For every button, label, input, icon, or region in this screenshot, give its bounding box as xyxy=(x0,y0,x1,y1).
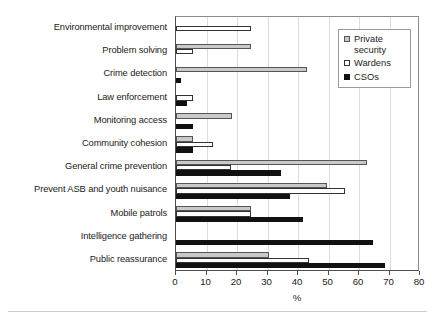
legend-label: Private security xyxy=(354,34,386,55)
bar-group xyxy=(176,110,418,133)
category-label: Crime detection xyxy=(0,68,167,78)
category-label: Community cohesion xyxy=(0,138,167,148)
bar-wardens xyxy=(176,26,251,31)
legend-swatch-private-icon xyxy=(344,36,350,42)
tick-label-60: 60 xyxy=(345,276,371,287)
category-label: Prevent ASB and youth nuisance xyxy=(0,184,167,194)
legend-label: CSOs xyxy=(354,72,379,83)
bar-chart: Environmental improvementProblem solving… xyxy=(0,0,435,320)
category-label: Intelligence gathering xyxy=(0,231,167,241)
bar-group xyxy=(176,156,418,179)
bar-csos xyxy=(176,170,281,175)
tick-label-40: 40 xyxy=(284,276,310,287)
tick-mark-20 xyxy=(236,271,237,275)
legend-swatch-wardens-icon xyxy=(344,60,350,66)
category-label: Mobile patrols xyxy=(0,208,167,218)
bar-csos xyxy=(176,101,187,106)
figure-bottom-rule xyxy=(8,311,427,312)
tick-mark-0 xyxy=(175,271,176,275)
category-label: Public reassurance xyxy=(0,254,167,264)
bar-group xyxy=(176,179,418,202)
tick-mark-70 xyxy=(389,271,390,275)
tick-label-50: 50 xyxy=(315,276,341,287)
bar-csos xyxy=(176,124,193,129)
bar-csos xyxy=(176,194,290,199)
x-axis-title: % xyxy=(175,292,419,303)
tick-label-10: 10 xyxy=(193,276,219,287)
bar-csos xyxy=(176,240,373,245)
category-label: General crime prevention xyxy=(0,161,167,171)
bar-csos xyxy=(176,263,385,268)
tick-mark-60 xyxy=(358,271,359,275)
bar-group xyxy=(176,202,418,225)
tick-mark-40 xyxy=(297,271,298,275)
bar-group xyxy=(176,87,418,110)
bar-csos xyxy=(176,78,181,83)
bar-csos xyxy=(176,217,303,222)
tick-mark-30 xyxy=(267,271,268,275)
bar-private xyxy=(176,67,307,72)
bar-wardens xyxy=(176,49,193,54)
bar-group xyxy=(176,249,418,272)
tick-mark-80 xyxy=(419,271,420,275)
tick-mark-10 xyxy=(206,271,207,275)
tick-label-30: 30 xyxy=(254,276,280,287)
category-label: Monitoring access xyxy=(0,115,167,125)
category-axis: Environmental improvementProblem solving… xyxy=(0,16,173,271)
bar-csos xyxy=(176,147,193,152)
tick-label-0: 0 xyxy=(162,276,188,287)
category-label: Problem solving xyxy=(0,45,167,55)
legend-item[interactable]: CSOs xyxy=(344,72,405,83)
tick-mark-50 xyxy=(328,271,329,275)
bar-group xyxy=(176,133,418,156)
legend-item[interactable]: Wardens xyxy=(344,58,405,69)
chart-legend: Private securityWardensCSOs xyxy=(338,29,411,88)
tick-label-20: 20 xyxy=(223,276,249,287)
category-label: Law enforcement xyxy=(0,92,167,102)
category-label: Environmental improvement xyxy=(0,22,167,32)
legend-label: Wardens xyxy=(354,58,391,69)
bar-group xyxy=(176,226,418,249)
bar-private xyxy=(176,113,232,118)
legend-item[interactable]: Private security xyxy=(344,34,405,55)
tick-label-70: 70 xyxy=(376,276,402,287)
tick-label-80: 80 xyxy=(406,276,432,287)
legend-swatch-csos-icon xyxy=(344,74,350,80)
